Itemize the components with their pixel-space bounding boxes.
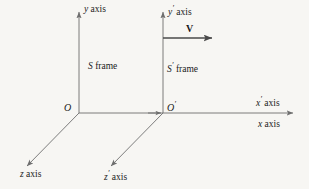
x-prime-axis-word: axis bbox=[264, 98, 279, 108]
z-prime-axis-label: z′ axis bbox=[104, 170, 127, 183]
x-prime-axis-label: x′ axis bbox=[256, 96, 280, 109]
y-axis-word: axis bbox=[91, 4, 106, 14]
z-axis-label: z axis bbox=[20, 170, 41, 180]
y-prime-axis-label: y′ axis bbox=[168, 5, 192, 18]
x-axis-label: x axis bbox=[258, 120, 280, 130]
reference-frames-diagram: y axis y′ axis V S frame S′ frame O O′ x… bbox=[0, 0, 309, 189]
origin-o-prime-mark: ′ bbox=[174, 100, 176, 109]
s-frame-word: frame bbox=[95, 61, 117, 71]
s-prime-frame-label: S′ frame bbox=[167, 62, 198, 75]
z-prime-axis-line bbox=[111, 113, 163, 166]
y-axis-label: y axis bbox=[84, 5, 106, 15]
z-axis-line bbox=[27, 113, 79, 166]
z-axis-word: axis bbox=[26, 169, 41, 179]
origin-o-prime-label: O′ bbox=[167, 101, 176, 113]
s-prime-frame-word: frame bbox=[176, 64, 198, 74]
diagram-canvas bbox=[0, 0, 309, 189]
s-frame-label: S frame bbox=[88, 62, 117, 72]
x-axis-word: axis bbox=[265, 119, 280, 129]
z-prime-axis-word: axis bbox=[112, 172, 127, 182]
velocity-vector-label: V bbox=[186, 24, 193, 34]
y-prime-axis-word: axis bbox=[176, 7, 191, 17]
origin-o-label: O bbox=[64, 103, 71, 113]
